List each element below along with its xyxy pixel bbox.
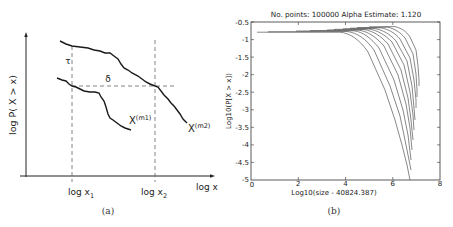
y-axis-arrow-icon bbox=[24, 32, 27, 37]
svg-text:-4.5: -4.5 bbox=[235, 159, 249, 167]
caption-b: (b) bbox=[328, 206, 341, 216]
panel-b-curves bbox=[257, 27, 419, 180]
x-axis-arrow-icon bbox=[210, 174, 215, 177]
svg-text:4: 4 bbox=[343, 180, 348, 188]
x-m2-label: X(m2) bbox=[188, 122, 210, 134]
panel-b: No. points: 100000 Alpha Estimate: 1.120… bbox=[225, 10, 442, 216]
delta-label: δ bbox=[105, 74, 111, 84]
svg-text:6: 6 bbox=[391, 180, 396, 188]
panel-a-y-label: log P( X > x) bbox=[7, 75, 18, 135]
panel-a-x-label: log x bbox=[196, 182, 219, 192]
svg-text:-4: -4 bbox=[242, 141, 250, 149]
figure: log P( X > x) τ δ X(m1) X(m2) log x1 log… bbox=[0, 0, 453, 227]
svg-text:-0.5: -0.5 bbox=[235, 19, 249, 27]
svg-text:2: 2 bbox=[296, 180, 300, 188]
panel-b-x-tick-labels: 0 2 4 6 8 bbox=[250, 180, 442, 189]
svg-text:8: 8 bbox=[438, 180, 442, 188]
tick-log-x2: log x2 bbox=[141, 187, 167, 200]
curve-x-m2 bbox=[60, 41, 187, 123]
svg-text:-3: -3 bbox=[242, 106, 249, 114]
curve-b-1 bbox=[257, 32, 410, 180]
panel-b-y-tick-labels: -0.5 -1 -1.5 -2 -2.5 -3 -3.5 -4 -4.5 -5 bbox=[235, 19, 249, 185]
tick-log-x1: log x1 bbox=[68, 187, 94, 200]
tau-label: τ bbox=[65, 56, 70, 66]
curve-b-2 bbox=[268, 32, 411, 171]
svg-text:-3.5: -3.5 bbox=[235, 124, 249, 132]
panel-b-title: No. points: 100000 Alpha Estimate: 1.120 bbox=[271, 10, 422, 19]
svg-text:-2.5: -2.5 bbox=[235, 89, 249, 97]
panel-a: log P( X > x) τ δ X(m1) X(m2) log x1 log… bbox=[7, 32, 219, 216]
svg-text:0: 0 bbox=[250, 181, 254, 189]
svg-text:-1: -1 bbox=[242, 36, 249, 44]
x-m1-label: X(m1) bbox=[129, 114, 151, 126]
curve-b-6 bbox=[334, 29, 414, 130]
caption-a: (a) bbox=[102, 206, 114, 216]
svg-text:-1.5: -1.5 bbox=[235, 54, 249, 62]
panel-b-y-ticks bbox=[251, 22, 440, 162]
svg-text:-2: -2 bbox=[242, 71, 249, 79]
curve-b-5 bbox=[327, 30, 413, 141]
panel-b-y-label: Log10(P[X > x]) bbox=[225, 73, 233, 129]
panel-b-plot-frame bbox=[251, 22, 440, 180]
svg-text:-5: -5 bbox=[242, 176, 249, 184]
curve-b-3 bbox=[296, 31, 411, 160]
curve-b-7 bbox=[343, 28, 415, 120]
panel-b-x-label: Log10(size - 40824.387) bbox=[291, 189, 377, 197]
panel-b-x-ticks bbox=[298, 22, 393, 180]
